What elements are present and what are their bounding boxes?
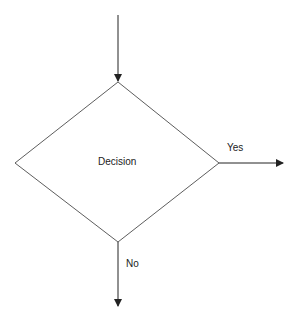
flowchart-canvas [0,0,296,322]
yes-label: Yes [227,142,243,153]
decision-label: Decision [98,156,136,167]
no-label: No [126,258,139,269]
